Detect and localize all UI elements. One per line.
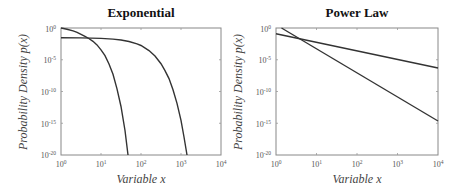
x-tick-labels: 100 101 102 103 104: [56, 159, 227, 169]
svg-text:100: 100: [271, 159, 282, 169]
svg-text:103: 103: [392, 159, 403, 169]
svg-text:100: 100: [45, 24, 56, 34]
svg-text:100: 100: [56, 159, 67, 169]
y-axis-label: Probability Density p(x): [231, 34, 245, 151]
x-tick-labels: 100 101 102 103 104: [271, 159, 444, 169]
svg-text:10-5: 10-5: [258, 55, 271, 65]
y-tick-labels: 100 10-5 10-10 10-15 10-20: [256, 24, 272, 160]
svg-text:104: 104: [216, 159, 227, 169]
svg-text:10-20: 10-20: [256, 150, 272, 160]
y-axis-label: Probability Density p(x): [16, 34, 30, 151]
svg-text:10-5: 10-5: [43, 55, 56, 65]
plot-area: [276, 28, 438, 155]
series-power-law-steep: [282, 28, 439, 121]
chart-title: Power Law: [326, 5, 390, 20]
x-tick-marks: [101, 28, 181, 155]
svg-text:10-10: 10-10: [256, 87, 272, 97]
x-axis-label: Variable x: [117, 172, 167, 186]
svg-text:100: 100: [260, 24, 271, 34]
svg-text:101: 101: [311, 159, 322, 169]
chart-title: Exponential: [107, 5, 175, 20]
series-exponential-steep: [61, 28, 128, 155]
svg-text:10-15: 10-15: [256, 119, 272, 129]
y-tick-labels: 100 10-5 10-10 10-15 10-20: [41, 24, 57, 160]
svg-text:103: 103: [176, 159, 187, 169]
svg-text:102: 102: [352, 159, 363, 169]
plot-area: [61, 28, 221, 155]
svg-text:102: 102: [136, 159, 147, 169]
y-tick-marks: [276, 60, 438, 124]
svg-text:104: 104: [433, 159, 444, 169]
y-tick-marks: [61, 60, 221, 124]
figure: Exponential 100 10-5 10-10 10-15 10-20 1…: [0, 0, 457, 195]
series-exponential-slow: [61, 38, 187, 155]
svg-text:10-15: 10-15: [41, 119, 57, 129]
svg-text:10-20: 10-20: [41, 150, 57, 160]
x-tick-marks: [317, 28, 398, 155]
svg-text:10-10: 10-10: [41, 87, 57, 97]
panel-exponential: Exponential 100 10-5 10-10 10-15 10-20 1…: [16, 5, 227, 186]
panel-power-law: Power Law 100 10-5 10-10 10-15 10-20 100…: [231, 5, 444, 186]
x-axis-label: Variable x: [333, 172, 383, 186]
svg-text:101: 101: [96, 159, 107, 169]
